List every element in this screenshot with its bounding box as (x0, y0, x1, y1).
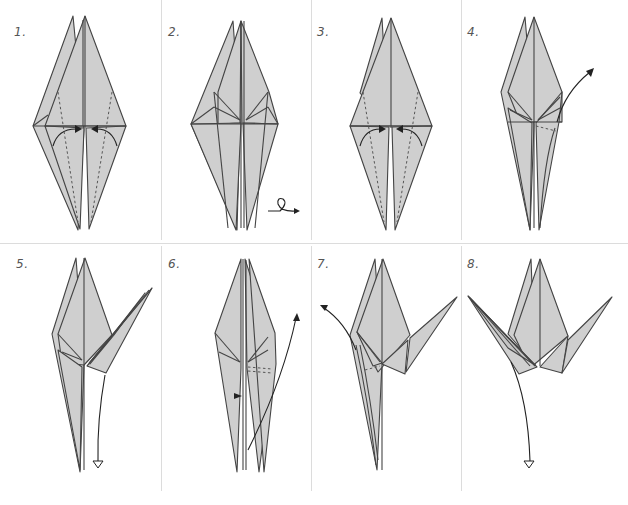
hollow-arrowhead-icon (524, 461, 534, 468)
step-3-figure (350, 18, 432, 230)
step-2-figure (191, 21, 300, 230)
step-4-figure (501, 17, 594, 230)
diagram-grid: 1. 2. 3. 4. 5. 6. 7. 8. (0, 0, 628, 505)
step-7-figure (320, 259, 457, 470)
hollow-arrowhead-icon (93, 461, 103, 468)
step-5-figure (52, 258, 152, 472)
curved-arrow-icon (511, 362, 530, 461)
turn-over-arrow-icon (268, 199, 296, 212)
fold-illustrations (0, 0, 628, 505)
step-1-figure (33, 16, 126, 230)
curved-arrow-icon (98, 375, 105, 461)
step-8-figure (468, 259, 612, 468)
step-6-figure (215, 259, 300, 472)
